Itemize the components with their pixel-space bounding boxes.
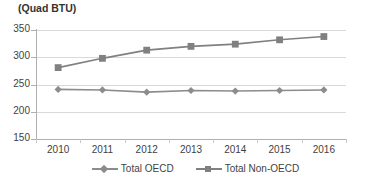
data-point-square <box>99 55 106 62</box>
series-total-non-oecd <box>55 33 328 71</box>
plot-series-layer <box>0 0 391 186</box>
data-point-square <box>55 64 62 71</box>
data-point-square <box>188 43 195 50</box>
data-point-diamond <box>99 86 106 93</box>
data-point-diamond <box>276 87 283 94</box>
series-line <box>58 37 324 68</box>
legend-label: Total Non-OECD <box>225 163 299 174</box>
legend-swatch <box>196 164 222 174</box>
legend-label: Total OECD <box>121 163 174 174</box>
chart-legend: Total OECDTotal Non-OECD <box>0 163 391 174</box>
data-point-diamond <box>187 87 194 94</box>
legend-marker-square-icon <box>205 166 211 172</box>
legend-marker-diamond-icon <box>100 164 108 172</box>
data-point-diamond <box>143 89 150 96</box>
series-total-oecd <box>55 86 328 96</box>
legend-item[interactable]: Total Non-OECD <box>196 163 299 174</box>
data-point-square <box>276 36 283 43</box>
data-point-diamond <box>320 86 327 93</box>
data-point-square <box>143 47 150 54</box>
legend-swatch <box>92 164 118 174</box>
data-point-diamond <box>55 86 62 93</box>
legend-item[interactable]: Total OECD <box>92 163 174 174</box>
data-point-square <box>320 33 327 40</box>
data-point-square <box>232 41 239 48</box>
chart-container: (Quad BTU) 150200250300350 2010201120122… <box>0 0 391 186</box>
data-point-diamond <box>232 87 239 94</box>
